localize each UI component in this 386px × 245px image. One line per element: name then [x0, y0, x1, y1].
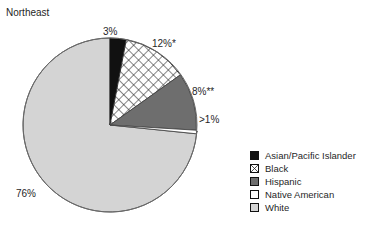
legend-swatch-solid-gray-icon — [250, 177, 259, 186]
legend-label-black: Black — [265, 163, 288, 174]
slice-label-white: 76% — [16, 188, 36, 199]
legend-label-white: White — [265, 202, 289, 213]
legend-swatch-solid-lightgray-icon — [250, 203, 259, 212]
legend-item-hispanic: Hispanic — [250, 175, 384, 188]
legend-label-native-american: Native American — [265, 189, 334, 200]
slice-label-hispanic: 8%** — [192, 86, 214, 97]
legend-swatch-solid-black-icon — [250, 151, 259, 160]
pie-chart: 3% 12%* 8%** >1% 76% — [0, 0, 240, 245]
legend-item-white: White — [250, 201, 384, 214]
chart-legend: Asian/Pacific Islander Black Hispanic Na… — [250, 149, 384, 214]
crosshatch-swatch-icon — [251, 165, 258, 172]
legend-swatch-crosshatch-icon — [250, 164, 259, 173]
legend-label-hispanic: Hispanic — [265, 176, 301, 187]
legend-item-asian-pacific-islander: Asian/Pacific Islander — [250, 149, 384, 162]
slice-label-native-american: >1% — [199, 114, 219, 125]
legend-item-black: Black — [250, 162, 384, 175]
slice-label-black: 12%* — [152, 38, 176, 49]
legend-swatch-solid-white-icon — [250, 190, 259, 199]
legend-item-native-american: Native American — [250, 188, 384, 201]
legend-label-asian-pacific-islander: Asian/Pacific Islander — [265, 150, 356, 161]
slice-label-asian-pacific-islander: 3% — [103, 26, 117, 37]
